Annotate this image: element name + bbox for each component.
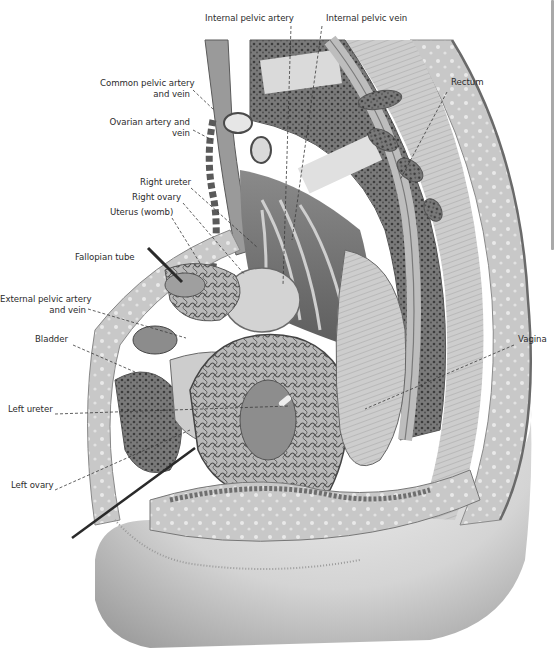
label-line-2: vein xyxy=(172,128,190,138)
label-left-ureter: Left ureter xyxy=(8,404,53,415)
label-line-2: and vein xyxy=(49,305,86,315)
vertical-scrollbar[interactable] xyxy=(550,0,555,652)
label-internal-pelvic-artery: Internal pelvic artery xyxy=(205,13,294,24)
label-bladder: Bladder xyxy=(35,334,68,345)
label-uterus-womb: Uterus (womb) xyxy=(110,207,173,218)
label-ovarian-artery-and-vein: Ovarian artery and vein xyxy=(100,117,190,139)
pubic-bone xyxy=(115,372,181,473)
label-right-ureter: Right ureter xyxy=(140,177,191,188)
label-internal-pelvic-vein: Internal pelvic vein xyxy=(326,13,407,24)
label-vagina: Vagina xyxy=(518,334,547,345)
label-fallopian-tube: Fallopian tube xyxy=(75,252,135,263)
label-rectum: Rectum xyxy=(451,77,484,88)
label-left-ovary: Left ovary xyxy=(11,480,54,491)
label-common-pelvic-artery-and-vein: Common pelvic artery and vein xyxy=(100,78,190,100)
label-right-ovary: Right ovary xyxy=(132,192,181,203)
rectal-muscle-mass xyxy=(336,250,406,466)
pelvis-illustration xyxy=(0,0,555,652)
label-line-1: Ovarian artery and xyxy=(109,117,190,127)
scrollbar-thumb[interactable] xyxy=(551,0,554,250)
label-line-1: Common pelvic artery xyxy=(100,78,195,88)
label-external-pelvic-artery-and-vein: External pelvic artery and vein xyxy=(0,294,86,316)
anatomy-diagram: Internal pelvic artery Internal pelvic v… xyxy=(0,0,555,652)
label-line-1: External pelvic artery xyxy=(0,294,91,304)
label-line-2: and vein xyxy=(153,89,190,99)
